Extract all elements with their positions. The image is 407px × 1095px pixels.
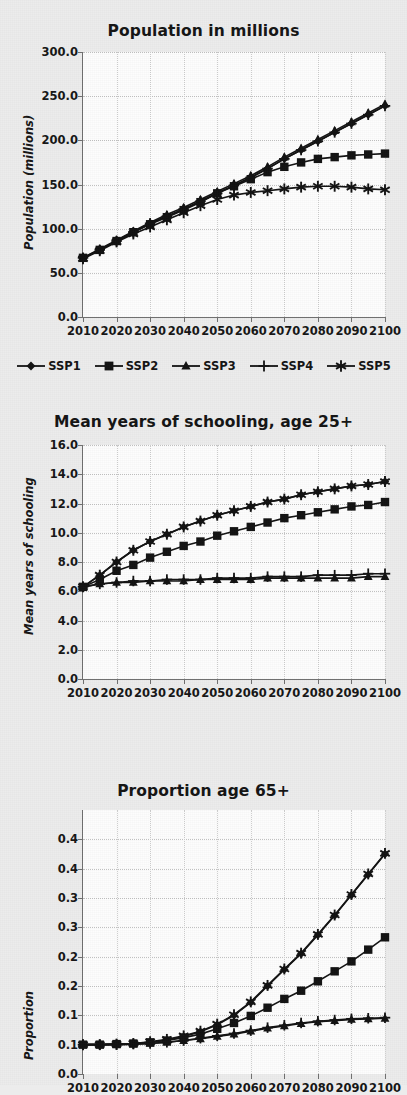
x-tick-mark [318, 1074, 319, 1079]
x-tick-label: 2080 [302, 1081, 334, 1095]
x-tick-label: 2070 [268, 324, 300, 338]
x-tick-label: 2070 [268, 1081, 300, 1095]
x-tick-mark [184, 317, 185, 322]
x-tick-mark [117, 317, 118, 322]
x-tick-label: 2100 [369, 686, 401, 700]
x-tick-label: 2070 [268, 686, 300, 700]
x-tick-mark [83, 679, 84, 684]
y-tick-label: 100.0 [42, 222, 78, 236]
legend-label: SSP3 [203, 359, 235, 373]
y-tick-label: 150.0 [42, 178, 78, 192]
x-tick-label: 2050 [201, 324, 233, 338]
legend-item-ssp1[interactable]: SSP1 [16, 358, 80, 374]
x-tick-label: 2090 [335, 1081, 367, 1095]
legend-label: SSP5 [358, 359, 390, 373]
x-tick-mark [150, 317, 151, 322]
y-tick-label: 50.0 [50, 266, 78, 280]
x-tick-label: 2030 [134, 1081, 166, 1095]
x-tick-mark [385, 317, 386, 322]
y-tick-label: 0.1 [58, 1038, 78, 1052]
chart-title-schooling: Mean years of schooling, age 25+ [0, 413, 407, 431]
x-tick-mark [117, 679, 118, 684]
series-layer [83, 445, 385, 679]
x-tick-label: 2030 [134, 324, 166, 338]
y-tick-label: 0.1 [58, 1008, 78, 1022]
legend-label: SSP2 [126, 359, 158, 373]
y-tick-label: 12.0 [50, 497, 78, 511]
x-tick-label: 2050 [201, 1081, 233, 1095]
x-tick-mark [351, 317, 352, 322]
x-tick-label: 2010 [67, 1081, 99, 1095]
y-tick-label: 8.0 [58, 555, 78, 569]
x-tick-mark [385, 1074, 386, 1079]
x-tick-mark [351, 1074, 352, 1079]
y-tick-label: 300.0 [42, 45, 78, 59]
x-tick-mark [385, 679, 386, 684]
x-tick-label: 2090 [335, 324, 367, 338]
plus-marker-icon [249, 358, 279, 374]
x-tick-mark [251, 1074, 252, 1079]
y-tick-label: 200.0 [42, 133, 78, 147]
x-tick-mark [217, 679, 218, 684]
x-tick-mark [251, 679, 252, 684]
x-tick-mark [83, 317, 84, 322]
plot-area-population: 0.050.0100.0150.0200.0250.0300.020102020… [82, 52, 385, 318]
x-tick-mark [150, 1074, 151, 1079]
series-ssp4 [78, 568, 391, 592]
asterisk-marker-icon [326, 358, 356, 374]
x-tick-label: 2090 [335, 686, 367, 700]
x-tick-label: 2040 [168, 324, 200, 338]
y-tick-label: 14.0 [50, 467, 78, 481]
x-tick-mark [251, 317, 252, 322]
x-tick-label: 2060 [235, 686, 267, 700]
x-tick-mark [284, 317, 285, 322]
legend-item-ssp2[interactable]: SSP2 [94, 358, 158, 374]
x-tick-label: 2040 [168, 1081, 200, 1095]
y-axis-label-schooling: Mean years of schooling [22, 477, 36, 635]
series-layer [83, 810, 385, 1074]
x-tick-label: 2020 [101, 324, 133, 338]
chart-title-population: Population in millions [0, 22, 407, 40]
chart-panel-population: Population in millions Population (milli… [0, 0, 407, 390]
chart-legend: SSP1SSP2SSP3SSP4SSP5 [0, 358, 407, 374]
x-tick-label: 2100 [369, 1081, 401, 1095]
x-tick-label: 2060 [235, 324, 267, 338]
x-tick-label: 2010 [67, 686, 99, 700]
x-tick-mark [184, 679, 185, 684]
x-tick-label: 2050 [201, 686, 233, 700]
x-tick-mark [318, 679, 319, 684]
x-tick-label: 2060 [235, 1081, 267, 1095]
y-tick-label: 0.2 [58, 950, 78, 964]
x-tick-label: 2020 [101, 1081, 133, 1095]
x-tick-label: 2080 [302, 686, 334, 700]
x-tick-mark [150, 679, 151, 684]
legend-label: SSP1 [48, 359, 80, 373]
x-tick-mark [318, 317, 319, 322]
x-tick-label: 2100 [369, 324, 401, 338]
y-tick-label: 16.0 [50, 438, 78, 452]
plot-area-schooling: 0.02.04.06.08.010.012.014.016.0201020202… [82, 445, 385, 680]
chart-panel-schooling: Mean years of schooling, age 25+ Mean ye… [0, 390, 407, 740]
chart-title-proportion: Proportion age 65+ [0, 782, 407, 800]
y-tick-label: 0.0 [58, 672, 78, 686]
chart-panel-proportion: Proportion age 65+ Proportion 0.00.10.10… [0, 740, 407, 1085]
y-tick-label: 0.3 [58, 920, 78, 934]
x-tick-mark [284, 1074, 285, 1079]
legend-item-ssp4[interactable]: SSP4 [249, 358, 313, 374]
x-tick-label: 2020 [101, 686, 133, 700]
legend-item-ssp3[interactable]: SSP3 [171, 358, 235, 374]
series-ssp2 [79, 149, 389, 262]
x-tick-mark [83, 1074, 84, 1079]
y-tick-label: 6.0 [58, 584, 78, 598]
legend-label: SSP4 [281, 359, 313, 373]
x-tick-mark [217, 1074, 218, 1079]
square-marker-icon [94, 358, 124, 374]
series-ssp5 [78, 181, 389, 264]
x-tick-label: 2030 [134, 686, 166, 700]
x-tick-mark [351, 679, 352, 684]
x-tick-mark [284, 679, 285, 684]
plot-area-proportion: 0.00.10.10.20.20.30.30.40.42010202020302… [82, 810, 385, 1074]
legend-item-ssp5[interactable]: SSP5 [326, 358, 390, 374]
y-tick-label: 10.0 [50, 526, 78, 540]
